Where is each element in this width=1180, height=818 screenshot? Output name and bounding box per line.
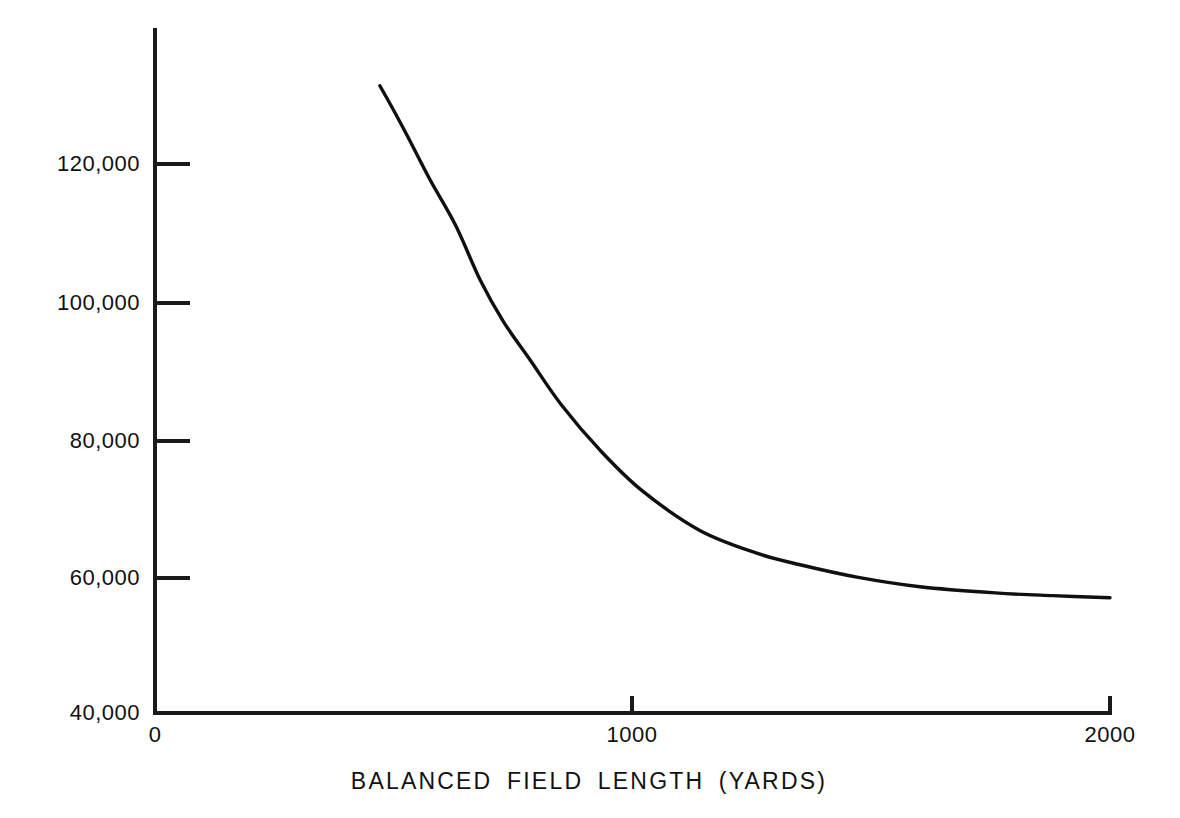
- x-tick-label-2000: 2000: [1085, 722, 1136, 747]
- y-tick-label-60000: 60,000: [70, 565, 140, 590]
- y-tick-label-80000: 80,000: [70, 428, 140, 453]
- y-tick-label-40000: 40,000: [70, 700, 140, 725]
- y-axis-ticks: [155, 164, 190, 578]
- plot-axes: [155, 30, 1110, 713]
- x-axis-tick-labels: 0 1000 2000: [149, 722, 1136, 747]
- x-axis-title: BALANCED FIELD LENGTH (YARDS): [351, 768, 827, 794]
- x-axis-ticks: [632, 696, 1110, 713]
- data-curve-balanced-field-length: [380, 86, 1110, 598]
- x-tick-label-1000: 1000: [607, 722, 658, 747]
- x-tick-label-0: 0: [149, 722, 162, 747]
- balanced-field-length-plot: 120,000 100,000 80,000 60,000 40,000 0 1…: [0, 0, 1180, 818]
- y-tick-label-100000: 100,000: [57, 290, 140, 315]
- chart-figure: 120,000 100,000 80,000 60,000 40,000 0 1…: [0, 0, 1180, 818]
- y-axis-tick-labels: 120,000 100,000 80,000 60,000 40,000: [57, 151, 140, 725]
- y-tick-label-120000: 120,000: [57, 151, 140, 176]
